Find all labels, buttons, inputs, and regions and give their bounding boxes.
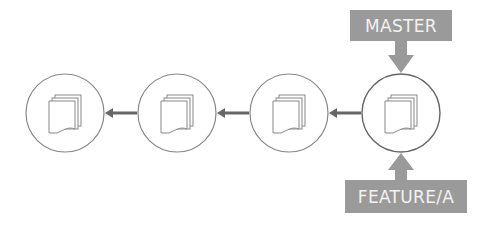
document-stack-icon <box>273 95 305 133</box>
document-stack-icon <box>385 95 417 133</box>
arrow-left-icon <box>105 108 137 118</box>
branch-label-master: MASTER <box>350 10 452 41</box>
commit-node-2 <box>138 74 216 152</box>
commit-node-1 <box>26 74 104 152</box>
arrow-down-icon <box>388 40 414 73</box>
arrow-left-icon <box>329 108 361 118</box>
arrow-left-icon <box>217 108 249 118</box>
commit-node-4 <box>362 74 440 152</box>
document-stack-icon <box>49 95 81 133</box>
document-stack-icon <box>161 95 193 133</box>
commit-node-3 <box>250 74 328 152</box>
branch-label-feature: FEATURE/A <box>345 180 467 213</box>
arrow-up-icon <box>388 153 414 181</box>
